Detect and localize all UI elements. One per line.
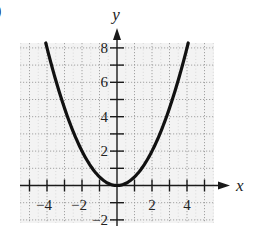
y-tick-label: 6 <box>101 74 109 90</box>
y-tick-label: 8 <box>101 40 109 56</box>
x-tick-label: −2 <box>71 197 87 213</box>
parabola-chart: −4−2248642−2 x y <box>0 0 253 238</box>
y-tick-label: 4 <box>101 109 109 125</box>
y-axis-arrow-icon <box>113 28 121 40</box>
y-tick-label: −2 <box>92 212 108 228</box>
y-tick-label: 2 <box>101 143 109 159</box>
x-tick-label: 4 <box>183 197 191 213</box>
x-axis-label: x <box>235 176 244 195</box>
y-axis-label: y <box>110 5 120 24</box>
x-tick-label: −4 <box>36 197 52 213</box>
x-tick-label: 2 <box>148 197 156 213</box>
x-axis-arrow-icon <box>218 182 230 190</box>
